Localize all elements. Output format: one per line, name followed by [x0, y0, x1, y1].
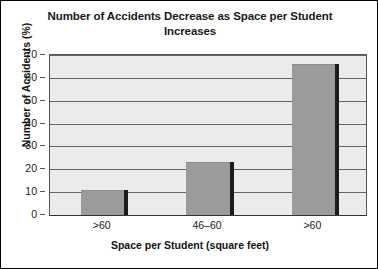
- y-tick-label: 40: [25, 117, 37, 129]
- y-tick-mark: [40, 54, 45, 55]
- x-axis-title: Space per Student (square feet): [27, 239, 353, 251]
- bar-fill: [186, 162, 229, 215]
- y-tick-label: 0: [31, 208, 37, 220]
- y-tick-mark: [40, 145, 45, 146]
- y-tick-label: 60: [25, 71, 37, 83]
- y-tick-mark: [40, 214, 45, 215]
- y-axis: 010203040506070: [1, 54, 45, 214]
- plot-area: [49, 54, 367, 216]
- chart-container: Number of Accidents Decrease as Space pe…: [0, 0, 378, 269]
- y-tick-label: 10: [25, 185, 37, 197]
- x-tick-label: 46–60: [154, 219, 259, 231]
- bar-shadow: [335, 64, 339, 215]
- bar: [81, 55, 124, 215]
- y-tick-label: 70: [25, 48, 37, 60]
- bar-shadow: [230, 162, 234, 215]
- y-tick-label: 30: [25, 139, 37, 151]
- x-axis: >6046–60>60: [49, 219, 367, 235]
- y-tick-mark: [40, 123, 45, 124]
- y-tick-label: 50: [25, 94, 37, 106]
- bar-fill: [292, 64, 335, 215]
- x-tick-label: >60: [49, 219, 154, 231]
- y-tick-label: 20: [25, 162, 37, 174]
- y-tick-mark: [40, 77, 45, 78]
- y-tick-mark: [40, 191, 45, 192]
- y-tick-mark: [40, 100, 45, 101]
- bar-shadow: [124, 190, 128, 215]
- bar: [186, 55, 229, 215]
- bar: [292, 55, 335, 215]
- y-tick-mark: [40, 168, 45, 169]
- x-tick-label: >60: [260, 219, 365, 231]
- bar-fill: [81, 190, 124, 215]
- chart-title: Number of Accidents Decrease as Space pe…: [27, 9, 353, 39]
